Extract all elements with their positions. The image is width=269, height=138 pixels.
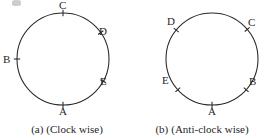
- point-label-b: B: [249, 76, 256, 87]
- point-label-d: D: [167, 16, 175, 27]
- figure-root: ABCDE (a)(Clock wise) ABCDE (b)(Anti-clo…: [0, 0, 269, 138]
- caption-b-text: (Anti-clock wise): [171, 123, 248, 135]
- point-label-e: E: [162, 75, 169, 86]
- point-label-a: A: [59, 106, 67, 117]
- figure-panel-a: ABCDE (a)(Clock wise): [0, 0, 134, 138]
- point-label-a: A: [208, 106, 216, 117]
- caption-b: (b)(Anti-clock wise): [135, 123, 269, 136]
- caption-a-index: (a): [31, 123, 43, 135]
- point-label-c: C: [59, 0, 66, 11]
- point-label-c: C: [248, 17, 255, 28]
- caption-a-text: (Clock wise): [46, 123, 103, 135]
- point-label-e: E: [100, 76, 107, 87]
- point-label-d: D: [99, 26, 107, 37]
- point-label-b: B: [3, 54, 10, 65]
- circle-outline: [17, 13, 109, 105]
- circle-outline: [166, 13, 258, 105]
- circle-diagram-a: [0, 0, 134, 122]
- caption-b-index: (b): [155, 123, 168, 135]
- figure-panel-b: ABCDE (b)(Anti-clock wise): [135, 0, 269, 138]
- caption-a: (a)(Clock wise): [0, 123, 134, 136]
